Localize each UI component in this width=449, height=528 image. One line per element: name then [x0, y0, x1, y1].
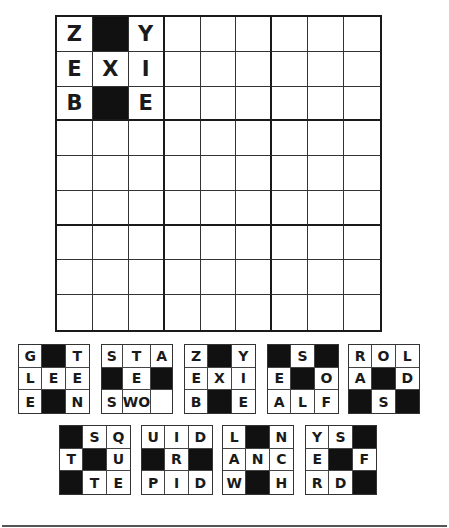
- board-cell[interactable]: [201, 191, 237, 226]
- board-cell[interactable]: [308, 87, 344, 122]
- board-cell[interactable]: [236, 191, 272, 226]
- piece-cell: U: [107, 449, 130, 472]
- board-cell[interactable]: [57, 226, 93, 261]
- board-cell[interactable]: [272, 260, 308, 295]
- board-cell[interactable]: [344, 260, 380, 295]
- board-cell[interactable]: [165, 156, 201, 191]
- board-cell[interactable]: [201, 156, 237, 191]
- board-cell[interactable]: [236, 295, 272, 330]
- puzzle-piece-8[interactable]: LNANCWH: [222, 425, 294, 495]
- board-cell[interactable]: [165, 260, 201, 295]
- board-cell[interactable]: [308, 52, 344, 87]
- board-cell[interactable]: [344, 156, 380, 191]
- board-cell[interactable]: [129, 191, 165, 226]
- puzzle-piece-4[interactable]: SEOALF: [267, 344, 339, 414]
- board-cell[interactable]: [201, 87, 237, 122]
- board-cell[interactable]: [344, 87, 380, 122]
- board-cell[interactable]: [129, 226, 165, 261]
- board-cell[interactable]: E: [129, 87, 165, 122]
- board-cell[interactable]: [57, 260, 93, 295]
- board-cell[interactable]: [93, 260, 129, 295]
- board-cell[interactable]: [308, 191, 344, 226]
- board-cell[interactable]: [129, 260, 165, 295]
- puzzle-piece-5[interactable]: ROLADS: [348, 344, 420, 414]
- board-cell[interactable]: [308, 226, 344, 261]
- board-cell[interactable]: [93, 295, 129, 330]
- piece-cell: S: [102, 345, 123, 368]
- puzzle-piece-7[interactable]: UIDRPID: [141, 425, 213, 495]
- board-cell[interactable]: [272, 191, 308, 226]
- board-cell[interactable]: [93, 156, 129, 191]
- board-cell[interactable]: [129, 295, 165, 330]
- board-cell[interactable]: [201, 52, 237, 87]
- board-cell[interactable]: [201, 121, 237, 156]
- board-cell[interactable]: [165, 295, 201, 330]
- board-cell[interactable]: [272, 121, 308, 156]
- board-cell[interactable]: [201, 226, 237, 261]
- board-cell[interactable]: [272, 52, 308, 87]
- board-cell[interactable]: [344, 17, 380, 52]
- board-cell[interactable]: [165, 121, 201, 156]
- piece-cell: T: [123, 345, 151, 368]
- board-cell[interactable]: [93, 121, 129, 156]
- board-cell[interactable]: [344, 191, 380, 226]
- board-cell[interactable]: [272, 226, 308, 261]
- board-cell[interactable]: [308, 17, 344, 52]
- board-cell[interactable]: [308, 295, 344, 330]
- board-cell[interactable]: Y: [129, 17, 165, 52]
- piece-cell: O: [372, 345, 395, 368]
- board-cell[interactable]: [272, 87, 308, 122]
- board-cell[interactable]: Z: [57, 17, 93, 52]
- board-cell[interactable]: I: [129, 52, 165, 87]
- piece-cell: S: [372, 390, 395, 413]
- board-cell[interactable]: [344, 121, 380, 156]
- board-cell[interactable]: [236, 87, 272, 122]
- piece-cell: A: [151, 345, 172, 368]
- board-cell[interactable]: [129, 121, 165, 156]
- board-cell[interactable]: [57, 156, 93, 191]
- board-cell[interactable]: [344, 295, 380, 330]
- board-cell[interactable]: [344, 226, 380, 261]
- board-cell[interactable]: [236, 156, 272, 191]
- board-cell[interactable]: [165, 226, 201, 261]
- board-cell[interactable]: [165, 87, 201, 122]
- board-cell[interactable]: [57, 121, 93, 156]
- board-cell[interactable]: [272, 156, 308, 191]
- board-cell[interactable]: [236, 52, 272, 87]
- board-cell[interactable]: [93, 226, 129, 261]
- board-cell[interactable]: [201, 17, 237, 52]
- board-cell[interactable]: B: [57, 87, 93, 122]
- board-cell[interactable]: [129, 156, 165, 191]
- puzzle-piece-1[interactable]: GTLEEEN: [18, 344, 90, 414]
- piece-cell: O: [315, 368, 338, 391]
- board-cell[interactable]: [165, 191, 201, 226]
- board-cell[interactable]: [272, 17, 308, 52]
- board-cell[interactable]: [93, 191, 129, 226]
- board-cell[interactable]: [308, 156, 344, 191]
- puzzle-piece-9[interactable]: YSEFRD: [305, 425, 377, 495]
- board-cell[interactable]: [57, 295, 93, 330]
- board-cell[interactable]: [344, 52, 380, 87]
- board-cell[interactable]: [57, 191, 93, 226]
- board-cell[interactable]: [272, 295, 308, 330]
- board-cell[interactable]: X: [93, 52, 129, 87]
- piece-cell: E: [66, 368, 89, 391]
- board-cell[interactable]: [308, 121, 344, 156]
- board-cell[interactable]: [201, 295, 237, 330]
- board-cell[interactable]: [165, 52, 201, 87]
- board-cell[interactable]: [165, 17, 201, 52]
- board-cell[interactable]: [201, 260, 237, 295]
- board-cell[interactable]: [308, 260, 344, 295]
- board-cell[interactable]: [236, 260, 272, 295]
- piece-cell: I: [232, 368, 255, 391]
- puzzle-piece-6[interactable]: SQTUTE: [59, 425, 131, 495]
- board-cell[interactable]: E: [57, 52, 93, 87]
- puzzle-piece-2[interactable]: STAESWO: [101, 344, 173, 414]
- board-cell[interactable]: [236, 17, 272, 52]
- piece-cell: E: [306, 449, 329, 472]
- piece-cell: L: [19, 368, 42, 391]
- puzzle-piece-3[interactable]: ZYEXIBE: [184, 344, 256, 414]
- board-cell[interactable]: [236, 226, 272, 261]
- piece-cell-blocked: [42, 390, 65, 413]
- board-cell[interactable]: [236, 121, 272, 156]
